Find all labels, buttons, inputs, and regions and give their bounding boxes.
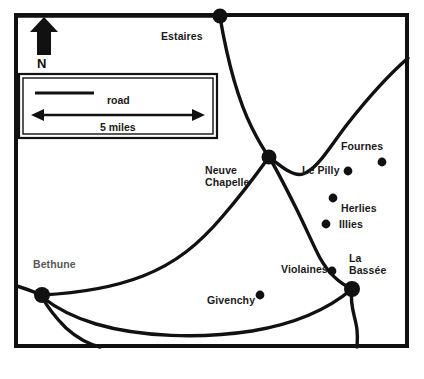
marker-neuve-chapelle[interactable] (262, 150, 277, 165)
place-label-le-pilly: Le Pilly (302, 164, 340, 176)
place-label-fournes: Fournes (341, 140, 383, 152)
map-figure: N road 5 miles Estaires Neuve Chapelle F… (0, 0, 424, 379)
place-label-violaines: Violaines (281, 263, 328, 275)
marker-violaines[interactable] (328, 267, 337, 276)
legend-road-label: road (107, 94, 130, 106)
place-label-neuve-chapelle: Neuve Chapelle (205, 164, 250, 188)
place-label-bethune: Bethune (33, 258, 76, 270)
place-label-estaires: Estaires (161, 30, 203, 42)
marker-illies[interactable] (322, 220, 331, 229)
map-canvas (0, 0, 424, 379)
map-background (0, 0, 424, 379)
place-label-herlies: Herlies (341, 202, 377, 214)
marker-herlies[interactable] (329, 194, 338, 203)
marker-givenchy[interactable] (256, 291, 265, 300)
compass-north-label: N (37, 56, 46, 71)
place-label-illies: Illies (339, 218, 363, 230)
legend-scale-label: 5 miles (100, 121, 136, 133)
marker-bethune[interactable] (34, 287, 50, 303)
marker-estaires[interactable] (213, 9, 228, 24)
marker-le-pilly[interactable] (344, 167, 353, 176)
marker-la-bassee[interactable] (344, 281, 360, 297)
place-label-givenchy: Givenchy (207, 294, 255, 306)
marker-fournes[interactable] (378, 158, 387, 167)
place-label-la-bassee: La Bassée (349, 252, 386, 276)
